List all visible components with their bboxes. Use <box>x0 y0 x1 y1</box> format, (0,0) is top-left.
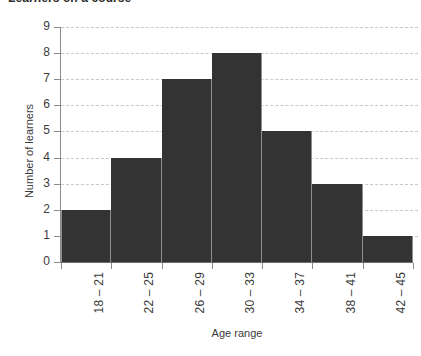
y-tick-label: 8 <box>28 45 50 59</box>
x-tick-label: 26 – 29 <box>193 272 207 334</box>
y-tick-label: 7 <box>28 71 50 85</box>
x-tick-label: 34 – 37 <box>293 272 307 334</box>
y-tick-mark <box>54 210 61 211</box>
y-tick-mark <box>54 79 61 80</box>
bar[interactable] <box>312 184 362 262</box>
x-tick-mark <box>413 263 414 269</box>
gridline <box>61 262 413 263</box>
x-tick-label: 22 – 25 <box>142 272 156 334</box>
x-tick-label: 38 – 41 <box>344 272 358 334</box>
y-tick-mark <box>54 131 61 132</box>
y-tick-label: 0 <box>28 254 50 268</box>
bar[interactable] <box>363 236 413 262</box>
x-tick-mark <box>111 263 112 269</box>
y-tick-label: 1 <box>28 228 50 242</box>
x-tick-label: 42 – 45 <box>394 272 408 334</box>
bar[interactable] <box>111 158 161 262</box>
x-tick-mark <box>363 263 364 269</box>
x-tick-mark <box>212 263 213 269</box>
x-tick-mark <box>61 263 62 269</box>
x-tick-label: 18 – 21 <box>92 272 106 334</box>
x-tick-mark <box>262 263 263 269</box>
y-tick-label: 9 <box>28 19 50 33</box>
y-tick-label: 6 <box>28 97 50 111</box>
y-tick-label: 4 <box>28 150 50 164</box>
y-tick-label: 3 <box>28 176 50 190</box>
y-tick-mark <box>54 53 61 54</box>
y-tick-label: 2 <box>28 202 50 216</box>
bar[interactable] <box>162 79 212 262</box>
y-tick-label: 5 <box>28 123 50 137</box>
bar[interactable] <box>212 53 262 262</box>
y-tick-mark <box>54 262 61 263</box>
x-tick-mark <box>162 263 163 269</box>
x-tick-label: 30 – 33 <box>243 272 257 334</box>
chart-title: Learners on a course <box>8 0 131 5</box>
y-tick-mark <box>54 236 61 237</box>
x-axis-title: Age range <box>61 327 413 339</box>
bar[interactable] <box>262 131 312 262</box>
x-tick-mark <box>312 263 313 269</box>
y-tick-mark <box>54 105 61 106</box>
plot-area <box>61 27 413 262</box>
y-tick-mark <box>54 158 61 159</box>
y-tick-mark <box>54 184 61 185</box>
y-tick-mark <box>54 27 61 28</box>
bar[interactable] <box>61 210 111 262</box>
